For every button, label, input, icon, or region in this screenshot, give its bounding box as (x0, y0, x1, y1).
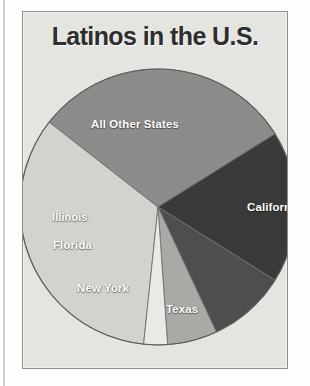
slice-label-california: California (247, 201, 287, 213)
figure-inner: Latinos in the U.S. All Other States Cal… (23, 12, 287, 368)
page-margin-rule (3, 0, 5, 386)
slice-label-all-other-states: All Other States (91, 118, 179, 130)
slice-label-illinois: Illinois (52, 211, 88, 223)
slice-label-new-york: New York (77, 282, 129, 294)
slice-label-texas: Texas (166, 303, 198, 315)
slice-label-florida: Florida (53, 239, 92, 251)
pie-chart (23, 12, 287, 368)
figure-frame: Latinos in the U.S. All Other States Cal… (22, 11, 288, 369)
